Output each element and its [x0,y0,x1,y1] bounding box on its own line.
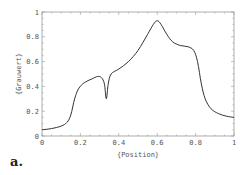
tick-labels: 00.20.40.60.8100.20.40.60.81 [26,9,236,148]
y-tick-label: 1 [35,9,39,17]
x-axis-label: {Position} [117,151,159,159]
axis-ticks [42,12,234,136]
x-tick-label: 0 [40,139,44,147]
x-tick-label: 1 [232,139,236,147]
x-tick-label: 0.6 [151,139,164,147]
y-tick-label: 0.6 [26,58,39,66]
y-axis-label: {Grauwert} [15,53,23,95]
x-tick-label: 0.4 [112,139,125,147]
y-tick-label: 0.4 [26,83,39,91]
y-tick-label: 0 [35,133,39,141]
x-tick-label: 0.8 [189,139,202,147]
panel-label: a. [10,154,23,169]
x-tick-label: 0.2 [74,139,87,147]
y-tick-label: 0.8 [26,33,39,41]
data-line [42,21,234,130]
plot-frame [42,12,234,136]
line-chart: 00.20.40.60.8100.20.40.60.81 {Position} … [0,0,249,175]
y-tick-label: 0.2 [26,108,39,116]
